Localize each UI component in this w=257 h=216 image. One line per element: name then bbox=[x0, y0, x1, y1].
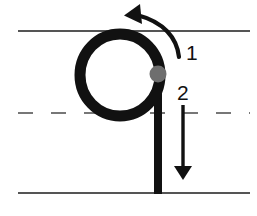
motion-diagram-svg: 1 2 bbox=[0, 0, 257, 216]
label-1: 1 bbox=[186, 41, 198, 64]
figure-canvas: 1 2 bbox=[0, 0, 257, 216]
pivot-node-dot bbox=[150, 66, 167, 83]
label-2: 2 bbox=[177, 81, 189, 104]
